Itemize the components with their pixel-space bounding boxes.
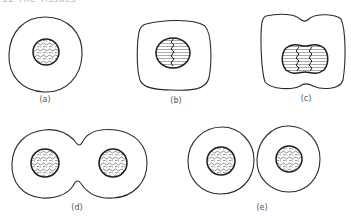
cell-a <box>9 17 82 92</box>
cell-d <box>12 129 147 198</box>
nucleus-e-left <box>207 147 235 175</box>
nucleus-a <box>33 39 59 65</box>
label-b: (b) <box>170 96 181 105</box>
cell-b <box>137 20 211 90</box>
mitosis-diagram <box>0 0 351 216</box>
label-d: (d) <box>71 203 82 212</box>
nucleus-e-right <box>276 146 302 172</box>
cells-e <box>188 126 320 194</box>
cell-c <box>261 14 345 88</box>
label-c: (c) <box>301 94 312 103</box>
nucleus-c <box>282 45 328 74</box>
nucleus-d-right <box>99 149 127 177</box>
label-e: (e) <box>256 203 267 212</box>
label-a: (a) <box>39 95 50 104</box>
nucleus-d-left <box>31 149 59 177</box>
